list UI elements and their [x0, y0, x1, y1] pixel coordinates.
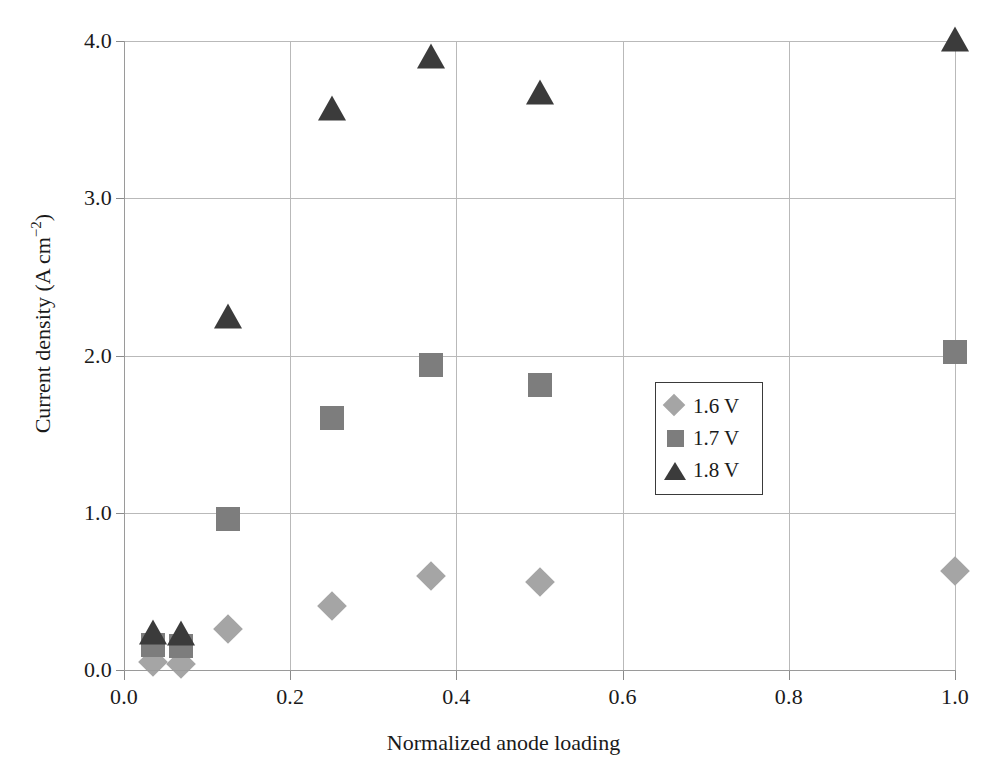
- x-axis-tick-mark: [456, 671, 457, 680]
- x-axis-tick-mark: [290, 671, 291, 680]
- gridline-horizontal: [124, 41, 955, 42]
- x-axis-tick-label: 0.8: [775, 684, 803, 710]
- y-axis-title-tail: ): [30, 214, 55, 221]
- chart-figure: 0.01.02.03.04.0 0.00.20.40.60.81.0 Norma…: [0, 0, 1007, 783]
- data-point-1-7-v: [943, 340, 967, 364]
- legend-item-1-8-v[interactable]: 1.8 V: [664, 454, 754, 486]
- data-point-1-7-v: [320, 406, 344, 430]
- x-axis-tick-mark: [955, 671, 956, 680]
- data-point-1-7-v: [528, 373, 552, 397]
- data-point-1-8-v: [318, 96, 346, 121]
- x-axis-tick-label: 0.6: [609, 684, 637, 710]
- y-axis-tick-label: 3.0: [84, 185, 112, 211]
- y-axis-line: [124, 41, 125, 671]
- gridline-horizontal: [124, 198, 955, 199]
- legend-item-label: 1.7 V: [693, 426, 739, 451]
- y-axis-tick-label: 1.0: [84, 500, 112, 526]
- x-axis-line: [124, 670, 956, 671]
- x-axis-title: Normalized anode loading: [0, 730, 1007, 756]
- legend-item-1-6-v[interactable]: 1.6 V: [664, 390, 754, 422]
- legend-item-label: 1.6 V: [693, 394, 739, 419]
- y-axis-tick-labels: 0.01.02.03.04.0: [0, 0, 112, 783]
- legend-item-label: 1.8 V: [693, 458, 739, 483]
- data-point-1-7-v: [216, 507, 240, 531]
- data-point-1-7-v: [419, 353, 443, 377]
- data-point-1-6-v: [213, 614, 243, 644]
- legend-item-1-7-v[interactable]: 1.7 V: [664, 422, 754, 454]
- y-axis-tick-label: 2.0: [84, 343, 112, 369]
- data-point-1-6-v: [417, 561, 447, 591]
- data-point-1-6-v: [525, 567, 555, 597]
- plot-area: [124, 41, 955, 670]
- triangle-marker-icon: [664, 459, 686, 481]
- x-axis-tick-label: 1.0: [941, 684, 969, 710]
- data-point-1-8-v: [139, 619, 167, 644]
- y-axis-title-exponent: −2: [28, 221, 44, 237]
- x-axis-tick-label: 0.4: [442, 684, 470, 710]
- y-axis-tick-label: 4.0: [84, 28, 112, 54]
- data-point-1-8-v: [167, 621, 195, 646]
- x-axis-tick-label: 0.2: [276, 684, 304, 710]
- data-point-1-8-v: [417, 44, 445, 69]
- square-marker-icon: [664, 427, 686, 449]
- data-point-1-8-v: [214, 303, 242, 328]
- y-axis-title-main: Current density (A cm: [30, 237, 55, 433]
- diamond-marker-icon: [664, 395, 686, 417]
- data-point-1-6-v: [940, 556, 970, 586]
- gridline-horizontal: [124, 356, 955, 357]
- gridline-horizontal: [124, 513, 955, 514]
- x-axis-tick-mark: [124, 671, 125, 680]
- data-point-1-8-v: [526, 80, 554, 105]
- data-point-1-6-v: [317, 591, 347, 621]
- x-axis-tick-label: 0.0: [110, 684, 138, 710]
- legend[interactable]: 1.6 V1.7 V1.8 V: [655, 382, 763, 495]
- y-axis-title: Current density (A cm−2): [28, 64, 55, 584]
- x-axis-tick-mark: [789, 671, 790, 680]
- data-point-1-8-v: [941, 27, 969, 52]
- x-axis-tick-mark: [623, 671, 624, 680]
- y-axis-tick-label: 0.0: [84, 657, 112, 683]
